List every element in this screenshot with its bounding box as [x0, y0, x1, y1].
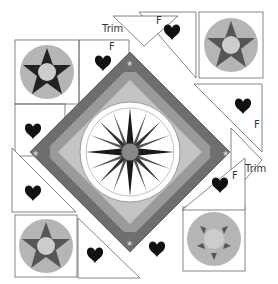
heart-icon: [25, 124, 41, 139]
svg-text:★: ★: [32, 149, 39, 158]
f-label-top-right: F: [156, 15, 162, 26]
star-medallion-top-right: [204, 18, 258, 72]
trim-label-top: Trim: [101, 23, 123, 34]
compass-center: [121, 143, 139, 161]
star-medallion-bottom-left: [19, 219, 73, 273]
svg-text:★: ★: [222, 149, 229, 158]
quilt-diagram: ★ ★ ★ ★ Trim F F: [0, 0, 278, 284]
star-medallion-top-left: [20, 45, 74, 99]
heart-icon: [95, 56, 111, 71]
svg-text:★: ★: [126, 239, 133, 248]
svg-text:★: ★: [126, 59, 133, 68]
f-label-top-left: F: [109, 41, 115, 52]
trim-label-right: Trim: [244, 163, 266, 174]
f-label-right: F: [254, 119, 260, 130]
f-label-bottom-right: F: [232, 170, 238, 181]
heart-icon: [149, 242, 165, 257]
star-medallion-bottom-right: [187, 212, 241, 266]
